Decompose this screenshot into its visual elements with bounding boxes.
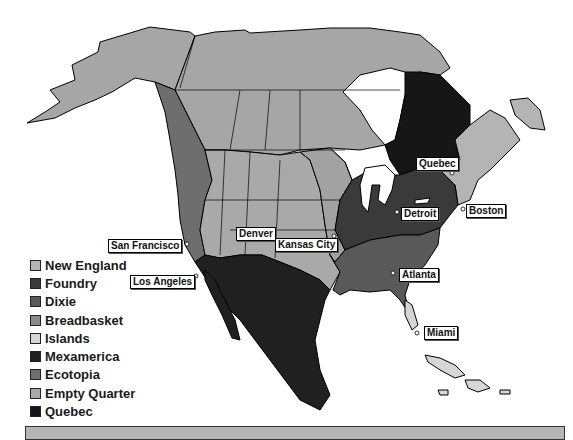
legend-swatch: [30, 315, 41, 326]
legend-item-new-england: New England: [30, 256, 135, 274]
legend-item-mexamerica: Mexamerica: [30, 347, 135, 365]
legend-swatch: [30, 333, 41, 344]
legend-item-dixie: Dixie: [30, 293, 135, 311]
legend-swatch: [30, 260, 41, 271]
legend-swatch: [30, 369, 41, 380]
legend-item-quebec: Quebec: [30, 402, 135, 420]
legend-label: Empty Quarter: [45, 386, 135, 401]
city-label-detroit: Detroit: [401, 207, 439, 221]
region-newfoundland: [510, 98, 545, 130]
legend-swatch: [30, 406, 41, 417]
legend-swatch: [30, 388, 41, 399]
region-mexamerica: [195, 255, 330, 410]
legend-swatch: [30, 351, 41, 362]
legend-label: Foundry: [45, 276, 97, 291]
city-label-san-francisco: San Francisco: [108, 239, 182, 253]
legend-label: New England: [45, 258, 127, 273]
region-cuba: [425, 355, 465, 378]
city-label-miami: Miami: [424, 326, 458, 340]
legend-label: Dixie: [45, 294, 76, 309]
city-label-kansas-city: Kansas City: [275, 238, 338, 252]
legend-label: Breadbasket: [45, 313, 123, 328]
city-label-denver: Denver: [236, 227, 276, 241]
legend-swatch: [30, 296, 41, 307]
region-puerto-rico: [500, 390, 510, 394]
legend-label: Islands: [45, 331, 90, 346]
city-label-atlanta: Atlanta: [399, 268, 439, 282]
city-label-boston: Boston: [466, 204, 506, 218]
legend-item-empty-quarter: Empty Quarter: [30, 384, 135, 402]
region-jamaica: [438, 390, 448, 395]
legend-item-ecotopia: Ecotopia: [30, 366, 135, 384]
city-label-quebec: Quebec: [416, 157, 459, 171]
bottom-bar: [25, 426, 565, 440]
legend: New England Foundry Dixie Breadbasket Is…: [30, 256, 135, 421]
region-islands-florida: [405, 300, 418, 330]
legend-label: Ecotopia: [45, 367, 100, 382]
legend-item-breadbasket: Breadbasket: [30, 311, 135, 329]
legend-item-foundry: Foundry: [30, 274, 135, 292]
legend-label: Mexamerica: [45, 349, 119, 364]
legend-item-islands: Islands: [30, 329, 135, 347]
legend-label: Quebec: [45, 404, 93, 419]
city-label-los-angeles: Los Angeles: [130, 275, 195, 289]
legend-swatch: [30, 278, 41, 289]
region-hispaniola: [465, 380, 490, 392]
